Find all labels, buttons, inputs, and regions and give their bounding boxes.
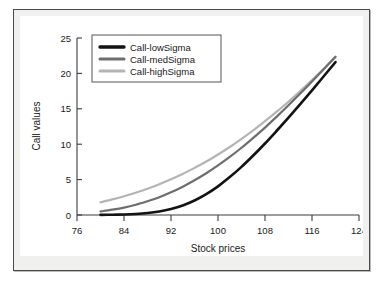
figure-frame: 25 20 15 10 5 0 76 84 92 100 108 116 124… — [13, 9, 370, 271]
x-tick-label: 116 — [304, 225, 319, 236]
legend-label-call-highsigma: Call-highSigma — [130, 66, 195, 77]
y-tick-marks — [77, 38, 82, 215]
legend-label-call-medsigma: Call-medSigma — [130, 54, 196, 65]
y-tick-label: 5 — [66, 174, 71, 185]
y-tick-label: 20 — [60, 68, 71, 79]
legend-label-call-lowsigma: Call-lowSigma — [130, 42, 191, 53]
plot-canvas: 25 20 15 10 5 0 76 84 92 100 108 116 124… — [20, 16, 363, 256]
x-axis-title: Stock prices — [191, 243, 245, 254]
y-tick-label: 15 — [60, 103, 71, 114]
y-axis-title: Call values — [31, 102, 42, 151]
x-tick-label: 124 — [351, 225, 363, 236]
x-tick-label: 92 — [166, 225, 177, 236]
chart-legend: Call-lowSigma Call-medSigma Call-highSig… — [92, 35, 221, 82]
x-tick-label: 76 — [72, 225, 83, 236]
x-tick-labels: 76 84 92 100 108 116 124 — [72, 225, 363, 236]
y-tick-label: 25 — [60, 33, 71, 44]
x-tick-label: 84 — [119, 225, 130, 236]
x-tick-label: 108 — [257, 225, 273, 236]
y-tick-label: 10 — [60, 139, 71, 150]
y-tick-labels: 25 20 15 10 5 0 — [60, 33, 71, 221]
x-tick-label: 100 — [210, 225, 226, 236]
x-tick-marks — [77, 215, 359, 221]
call-values-line-chart: 25 20 15 10 5 0 76 84 92 100 108 116 124… — [20, 16, 363, 256]
y-tick-label: 0 — [66, 210, 71, 221]
